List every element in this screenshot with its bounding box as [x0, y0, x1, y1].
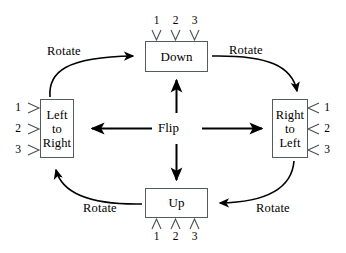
tick-number-down-1: 1	[152, 14, 162, 26]
edge-label-rotate-up-to-left: Rotate	[83, 201, 117, 216]
tick-marks-down	[152, 30, 199, 40]
tick-marks-left-to-right	[28, 103, 39, 155]
node-down-label: Down	[160, 50, 192, 64]
tick-number-up-1: 1	[152, 230, 162, 242]
tick-number-up-3: 3	[190, 230, 200, 242]
node-right-to-left-label: Right to Left	[276, 108, 304, 150]
edge-label-rotate-left-to-down: Rotate	[47, 44, 81, 59]
edge-label-rotate-right-to-up: Rotate	[256, 201, 290, 216]
node-left-to-right[interactable]: Left to Right	[40, 99, 74, 158]
edge-label-rotate-down-to-right: Rotate	[229, 43, 263, 58]
node-left-to-right-label: Left to Right	[43, 108, 71, 150]
rotate-arrow-down-to-right	[212, 56, 297, 91]
node-up-label: Up	[168, 196, 184, 210]
tick-number-left-to-right-2: 2	[13, 122, 23, 134]
tick-marks-up	[152, 219, 199, 229]
tick-number-up-2: 2	[171, 230, 181, 242]
tick-number-left-to-right-3: 3	[13, 143, 23, 155]
rotate-arrow-up-to-left	[56, 170, 142, 204]
node-up[interactable]: Up	[145, 188, 208, 218]
tick-marks-right-to-left	[308, 103, 319, 155]
node-right-to-left[interactable]: Right to Left	[272, 99, 308, 158]
node-down[interactable]: Down	[145, 41, 208, 72]
tick-number-left-to-right-1: 1	[13, 101, 23, 113]
tick-number-right-to-left-2: 2	[322, 122, 332, 134]
center-flip-label: Flip	[156, 120, 181, 136]
tick-number-right-to-left-3: 3	[322, 143, 332, 155]
tick-number-right-to-left-1: 1	[322, 101, 332, 113]
rotate-arrow-right-to-up	[220, 161, 294, 203]
tick-number-down-3: 3	[190, 14, 200, 26]
rotate-arrow-left-to-down	[50, 56, 133, 97]
diagram-canvas: Down Right to Left Up Left to Right Flip…	[0, 0, 346, 253]
tick-number-down-2: 2	[171, 14, 181, 26]
